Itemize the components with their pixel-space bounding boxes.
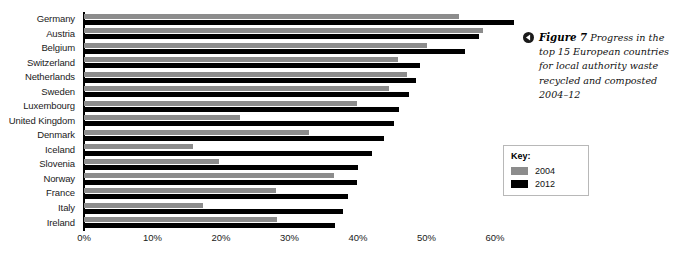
bar-switzerland-2004 (84, 57, 398, 62)
bar-ireland-2012 (84, 223, 335, 228)
legend-label-2004: 2004 (535, 166, 555, 176)
category-label: France (46, 188, 75, 198)
category-label: Denmark (37, 130, 75, 140)
bar-iceland-2004 (84, 144, 193, 149)
category-label: Slovenia (39, 159, 75, 169)
bar-belgium-2004 (84, 43, 427, 48)
bar-france-2004 (84, 188, 276, 193)
x-tick-label: 20% (211, 232, 230, 243)
x-tick-label: 30% (280, 232, 299, 243)
bar-luxembourg-2004 (84, 101, 357, 106)
category-label: Switzerland (27, 58, 75, 68)
category-label: Netherlands (25, 72, 75, 82)
left-triangle-icon (523, 32, 534, 43)
x-tick-label: 40% (348, 232, 367, 243)
bar-united-kingdom-2004 (84, 115, 240, 120)
bar-germany-2004 (84, 14, 459, 19)
bar-france-2012 (84, 194, 348, 199)
bar-austria-2004 (84, 28, 483, 33)
bar-italy-2012 (84, 209, 343, 214)
category-label: Ireland (47, 218, 75, 228)
category-label: Belgium (41, 43, 75, 53)
bar-sweden-2012 (84, 92, 409, 97)
bar-denmark-2004 (84, 130, 309, 135)
bar-norway-2012 (84, 180, 357, 185)
category-label: Luxembourg (23, 101, 75, 111)
x-axis-labels: 0%10%20%30%40%50%60% (0, 232, 520, 250)
bar-slovenia-2012 (84, 165, 358, 170)
category-label: Sweden (41, 87, 75, 97)
category-axis-labels: GermanyAustriaBelgiumSwitzerlandNetherla… (0, 12, 79, 230)
caption-text: Figure 7 Progress in the top 15 European… (523, 30, 681, 102)
x-tick-label: 0% (77, 232, 91, 243)
bar-italy-2004 (84, 203, 203, 208)
category-label: Austria (46, 29, 75, 39)
bar-iceland-2012 (84, 151, 372, 156)
x-tick-label: 50% (417, 232, 436, 243)
bar-denmark-2012 (84, 136, 384, 141)
category-label: Italy (58, 203, 75, 213)
figure-caption: Figure 7 Progress in the top 15 European… (523, 30, 681, 102)
x-tick-label: 10% (143, 232, 162, 243)
bar-united-kingdom-2012 (84, 121, 394, 126)
bar-slovenia-2004 (84, 159, 219, 164)
bar-ireland-2004 (84, 217, 277, 222)
bar-netherlands-2012 (84, 78, 416, 83)
bar-netherlands-2004 (84, 72, 407, 77)
legend-swatch-2012 (511, 180, 528, 188)
category-label: United Kingdom (9, 116, 75, 126)
bar-sweden-2004 (84, 86, 389, 91)
bar-germany-2012 (84, 20, 514, 25)
bar-switzerland-2012 (84, 63, 420, 68)
bar-austria-2012 (84, 34, 479, 39)
bar-luxembourg-2012 (84, 107, 399, 112)
category-label: Iceland (45, 145, 75, 155)
caption-figure-number: Figure 7 (539, 31, 587, 43)
chart-panel: GermanyAustriaBelgiumSwitzerlandNetherla… (0, 0, 520, 263)
legend-label-2012: 2012 (535, 179, 555, 189)
category-label: Norway (43, 174, 75, 184)
bar-norway-2004 (84, 173, 334, 178)
key-title: Key: (511, 151, 531, 161)
bar-belgium-2012 (84, 49, 465, 54)
chart-legend-key: Key: 2004 2012 (503, 145, 589, 196)
category-label: Germany (37, 14, 75, 24)
bars-area (84, 12, 520, 230)
legend-swatch-2004 (511, 167, 528, 175)
x-tick-label: 60% (485, 232, 504, 243)
